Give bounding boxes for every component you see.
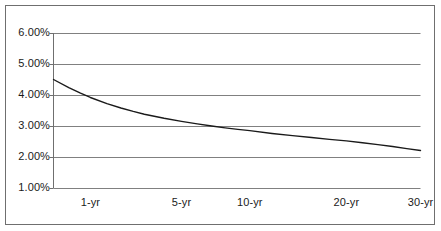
yield-curve-line	[54, 80, 421, 151]
x-axis-tick-label: 5-yr	[172, 196, 191, 208]
x-axis-tick-label: 30-yr	[408, 196, 434, 208]
chart-figure: 6.00%5.00%4.00%3.00%2.00%1.00% 1-yr5-yr1…	[0, 0, 441, 231]
x-axis-tick-label: 10-yr	[237, 196, 263, 208]
y-axis-tick-label: 3.00%	[4, 119, 50, 131]
y-axis-tick-label: 1.00%	[4, 181, 50, 193]
y-axis-tick-label: 4.00%	[4, 88, 50, 100]
chart-plot-area	[0, 0, 441, 231]
y-axis-tick-marks	[50, 34, 54, 189]
y-axis-tick-label: 6.00%	[4, 26, 50, 38]
y-axis-tick-label: 5.00%	[4, 57, 50, 69]
gridlines-group	[54, 34, 421, 189]
y-axis-tick-label: 2.00%	[4, 150, 50, 162]
x-axis-tick-label: 1-yr	[81, 196, 100, 208]
x-axis-tick-label: 20-yr	[334, 196, 360, 208]
